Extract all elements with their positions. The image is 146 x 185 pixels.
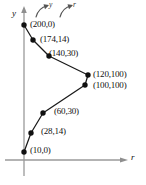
- data-point-marker: [82, 82, 87, 87]
- x-axis-label: r: [131, 152, 135, 162]
- annotation-label-r: r: [73, 0, 76, 9]
- data-point-marker: [21, 149, 26, 154]
- point-label-200-0: (200,0): [30, 19, 55, 29]
- point-label-174-14: (174,14): [40, 34, 69, 44]
- point-label-120-100: (120,100): [93, 69, 126, 79]
- data-point-marker: [30, 37, 35, 42]
- data-point-marker: [21, 22, 26, 27]
- plot-canvas: [0, 0, 146, 185]
- point-label-10-0: (10,0): [30, 145, 51, 155]
- coordinate-plot-figure: y r y r (200,0) (174,14) (140,30) (120,1…: [0, 0, 146, 185]
- annotation-label-y: y: [49, 0, 52, 9]
- y-axis-arrowhead: [21, 6, 27, 13]
- point-label-60-30: (60,30): [54, 106, 79, 116]
- point-label-28-14: (28,14): [41, 126, 66, 136]
- y-axis-label: y: [12, 8, 16, 18]
- data-point-marker: [28, 130, 33, 135]
- data-point-marker: [85, 72, 90, 77]
- point-label-100-100: (100,100): [93, 80, 126, 90]
- data-point-marker: [40, 110, 45, 115]
- x-axis-arrowhead: [120, 157, 128, 162]
- point-label-140-30: (140,30): [49, 48, 78, 58]
